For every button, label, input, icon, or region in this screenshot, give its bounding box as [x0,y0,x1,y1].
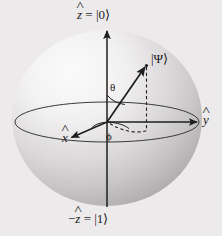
minus-z-axis-label: −z = |1⟩ [68,212,108,225]
y-axis-symbol: y [203,113,209,126]
bloch-sphere-canvas [0,0,222,236]
minus-z-axis-ket: |1⟩ [94,211,108,226]
z-axis-label: z = |0⟩ [77,8,110,21]
y-axis-label: y [203,113,209,126]
z-axis-equals: = [82,7,96,22]
x-axis-label: x [62,131,68,144]
minus-z-axis-symbol: z [75,212,80,225]
z-axis-symbol: z [77,8,82,21]
state-vector-point [145,64,148,67]
x-axis-symbol: x [62,131,68,144]
phi-label: ϕ [106,131,112,142]
theta-label: θ [110,82,115,93]
bloch-sphere-figure: z = |0⟩ −z = |1⟩ y x |Ψ⟩ θ ϕ [0,0,222,236]
z-axis-ket: |0⟩ [96,7,110,22]
state-vector-label: |Ψ⟩ [151,52,168,65]
minus-z-axis-equals: = [80,211,94,226]
